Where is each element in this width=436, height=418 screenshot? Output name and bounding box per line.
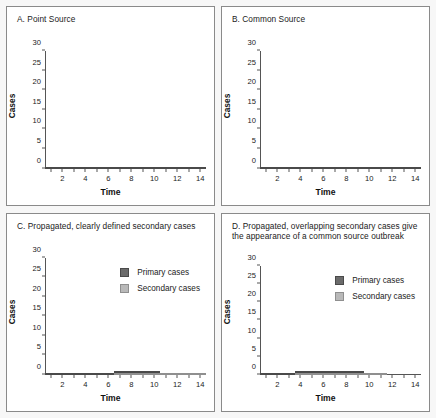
panel-d-x-ticks: 2468101214: [260, 375, 421, 395]
y-tick-label: 25: [248, 57, 260, 66]
x-tick-mark: [165, 375, 166, 378]
legend-label-primary: Primary cases: [352, 276, 404, 285]
panel-d-y-axis-label: Cases: [222, 300, 232, 325]
x-tick-mark: [119, 169, 120, 172]
legend-swatch-primary-icon: [120, 268, 129, 277]
legend-entry-secondary: Secondary cases: [335, 292, 415, 301]
y-tick-mark: [257, 301, 260, 302]
x-tick-mark: [277, 169, 278, 172]
x-tick-mark: [96, 375, 97, 378]
x-tick-mark: [277, 375, 278, 378]
x-tick-mark: [142, 375, 143, 378]
y-tick-label: 0: [37, 155, 45, 164]
y-tick-label: 25: [33, 264, 45, 273]
y-tick-label: 0: [252, 155, 260, 164]
y-tick-label: 5: [252, 343, 260, 352]
x-tick-label: 12: [173, 174, 181, 183]
x-tick-mark: [108, 375, 109, 378]
panel-c-legend: Primary cases Secondary cases: [120, 268, 200, 293]
x-tick-label: 14: [411, 380, 419, 389]
panel-b-x-axis-label: Time: [222, 187, 429, 197]
x-tick-mark: [177, 169, 178, 172]
x-tick-mark: [96, 169, 97, 172]
y-tick-label: 20: [33, 77, 45, 86]
x-tick-mark: [131, 169, 132, 172]
x-tick-label: 6: [106, 380, 110, 389]
y-tick-mark: [257, 89, 260, 90]
y-tick-mark: [42, 334, 45, 335]
y-tick-mark: [257, 167, 260, 168]
legend-label-secondary: Secondary cases: [137, 284, 200, 293]
y-tick-label: 5: [252, 135, 260, 144]
y-tick-mark: [42, 315, 45, 316]
x-tick-mark: [200, 375, 201, 378]
x-tick-label: 12: [173, 380, 181, 389]
x-tick-mark: [62, 375, 63, 378]
x-tick-label: 6: [106, 174, 110, 183]
legend-label-primary: Primary cases: [137, 268, 189, 277]
x-tick-mark: [334, 169, 335, 172]
x-tick-mark: [154, 169, 155, 172]
panel-d-plot-area: 2468101214 Primary cases Secondary cases…: [260, 266, 421, 376]
y-tick-label: 10: [33, 116, 45, 125]
x-tick-mark: [73, 169, 74, 172]
x-tick-mark: [85, 169, 86, 172]
y-tick-label: 25: [248, 270, 260, 279]
y-tick-label: 20: [33, 283, 45, 292]
x-tick-mark: [311, 169, 312, 172]
x-tick-mark: [142, 169, 143, 172]
y-tick-mark: [42, 276, 45, 277]
panel-a-bars: [45, 51, 206, 169]
panel-a-x-ticks: 2468101214: [45, 169, 206, 189]
y-tick-label: 15: [33, 303, 45, 312]
legend-entry-primary: Primary cases: [120, 268, 200, 277]
y-tick-label: 20: [248, 289, 260, 298]
x-tick-mark: [323, 375, 324, 378]
panel-d-legend: Primary cases Secondary cases: [335, 276, 415, 301]
x-tick-mark: [346, 169, 347, 172]
y-tick-label: 25: [33, 57, 45, 66]
x-tick-mark: [188, 169, 189, 172]
y-tick-label: 30: [248, 252, 260, 261]
y-tick-label: 5: [37, 135, 45, 144]
y-tick-mark: [257, 50, 260, 51]
y-tick-label: 10: [248, 116, 260, 125]
x-tick-label: 8: [344, 174, 348, 183]
y-tick-label: 15: [248, 96, 260, 105]
y-tick-mark: [42, 69, 45, 70]
y-tick-mark: [42, 89, 45, 90]
legend-entry-secondary: Secondary cases: [120, 284, 200, 293]
x-tick-mark: [380, 169, 381, 172]
y-tick-label: 10: [33, 322, 45, 331]
y-tick-mark: [257, 355, 260, 356]
x-tick-label: 4: [298, 380, 302, 389]
y-tick-mark: [42, 128, 45, 129]
x-tick-label: 6: [321, 380, 325, 389]
panel-a-point-source: A. Point Source Cases 2468101214 0510152…: [6, 6, 215, 206]
y-tick-mark: [42, 50, 45, 51]
panel-grid: A. Point Source Cases 2468101214 0510152…: [0, 0, 436, 418]
panel-b-y-axis-label: Cases: [222, 93, 232, 118]
y-tick-mark: [42, 295, 45, 296]
x-tick-label: 6: [321, 174, 325, 183]
x-tick-mark: [415, 169, 416, 172]
x-tick-label: 14: [196, 174, 204, 183]
panel-c-x-axis-label: Time: [7, 393, 214, 403]
x-tick-label: 10: [365, 380, 373, 389]
x-tick-mark: [177, 375, 178, 378]
panel-a-x-axis-label: Time: [7, 187, 214, 197]
x-tick-label: 2: [60, 380, 64, 389]
y-tick-label: 30: [248, 38, 260, 47]
x-tick-mark: [188, 375, 189, 378]
x-tick-mark: [403, 375, 404, 378]
x-tick-label: 4: [83, 380, 87, 389]
y-tick-mark: [42, 374, 45, 375]
x-tick-mark: [300, 375, 301, 378]
x-tick-mark: [380, 375, 381, 378]
x-tick-label: 2: [275, 174, 279, 183]
x-tick-label: 12: [388, 174, 396, 183]
x-tick-mark: [392, 375, 393, 378]
x-tick-mark: [369, 375, 370, 378]
x-tick-mark: [311, 375, 312, 378]
legend-swatch-secondary-icon: [335, 292, 344, 301]
